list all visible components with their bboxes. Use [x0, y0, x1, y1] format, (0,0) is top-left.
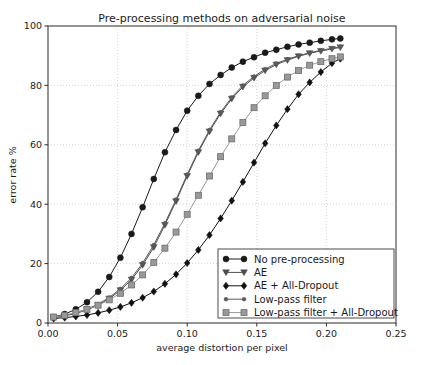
data-point-circle — [184, 108, 190, 114]
data-point-square — [95, 302, 101, 308]
data-point-dot — [263, 67, 267, 71]
data-point-square — [206, 173, 212, 179]
data-point-square — [173, 229, 179, 235]
data-point-dot — [230, 95, 234, 99]
y-tick-label: 60 — [30, 139, 42, 150]
y-tick-label: 100 — [24, 20, 42, 31]
data-point-dot — [338, 45, 342, 49]
data-point-dot — [242, 297, 246, 301]
x-tick-label: 0.20 — [316, 328, 337, 339]
chart-title: Pre-processing methods on adversarial no… — [98, 12, 345, 25]
data-point-dot — [224, 297, 228, 301]
data-point-circle — [129, 231, 135, 237]
data-point-square — [51, 314, 57, 320]
data-point-circle — [206, 81, 212, 87]
legend[interactable]: No pre-processingAEAE + All-DropoutLow-p… — [218, 249, 398, 318]
data-point-square — [106, 297, 112, 303]
data-point-circle — [307, 40, 313, 46]
data-point-circle — [106, 274, 112, 280]
data-point-square — [117, 290, 123, 296]
data-point-square — [296, 68, 302, 74]
data-point-dot — [208, 128, 212, 132]
data-point-square — [329, 56, 335, 62]
data-point-dot — [219, 110, 223, 114]
data-point-dot — [241, 84, 245, 88]
x-axis-label: average distortion per pixel — [156, 342, 287, 353]
legend-item-label: AE — [254, 267, 267, 278]
data-point-square — [337, 54, 343, 60]
chart-canvas: 0.000.050.100.150.200.25 020406080100 Pr… — [0, 0, 424, 365]
data-point-square — [307, 62, 313, 68]
data-point-square — [195, 192, 201, 198]
data-point-square — [223, 310, 229, 316]
data-point-circle — [284, 44, 290, 50]
data-point-square — [318, 59, 324, 65]
data-point-dot — [185, 173, 189, 177]
y-tick-label: 80 — [30, 80, 42, 91]
legend-item-label: AE + All-Dropout — [254, 280, 338, 291]
data-point-circle — [173, 127, 179, 133]
data-point-circle — [273, 47, 279, 53]
data-point-circle — [218, 72, 224, 78]
legend-item-label: Low-pass filter — [254, 294, 328, 305]
data-point-circle — [251, 54, 257, 60]
data-point-dot — [274, 62, 278, 66]
y-tick-label: 40 — [30, 199, 42, 210]
y-tick-label: 20 — [30, 258, 42, 269]
x-tick-label: 0.05 — [107, 328, 128, 339]
legend-item-label: No pre-processing — [254, 254, 345, 265]
data-point-square — [62, 312, 68, 318]
data-point-square — [84, 306, 90, 312]
data-point-circle — [84, 299, 90, 305]
data-point-dot — [163, 221, 167, 225]
data-point-dot — [319, 48, 323, 52]
data-point-dot — [152, 243, 156, 247]
data-point-circle — [262, 50, 268, 56]
data-point-square — [73, 310, 79, 316]
data-point-square — [162, 245, 168, 251]
data-point-dot — [141, 261, 145, 265]
data-point-circle — [223, 256, 229, 262]
data-point-square — [240, 120, 246, 126]
data-point-circle — [241, 256, 247, 262]
data-point-circle — [337, 35, 343, 41]
data-point-dot — [196, 149, 200, 153]
data-point-circle — [151, 176, 157, 182]
data-point-circle — [296, 41, 302, 47]
data-point-dot — [286, 57, 290, 61]
data-point-circle — [117, 255, 123, 261]
data-point-circle — [229, 65, 235, 71]
data-point-dot — [252, 75, 256, 79]
data-point-square — [229, 136, 235, 142]
data-point-square — [262, 93, 268, 99]
data-point-square — [218, 154, 224, 160]
y-axis-label: error rate % — [7, 146, 18, 203]
data-point-circle — [195, 93, 201, 99]
data-point-circle — [95, 289, 101, 295]
x-tick-label: 0.15 — [246, 328, 267, 339]
data-point-circle — [140, 204, 146, 210]
data-point-dot — [297, 54, 301, 58]
y-tick-label: 0 — [36, 317, 42, 328]
data-point-dot — [130, 276, 134, 280]
data-point-circle — [329, 36, 335, 42]
data-point-square — [273, 82, 279, 88]
legend-item-label: Low-pass filter + All-Dropout — [254, 307, 398, 318]
data-point-dot — [330, 46, 334, 50]
x-tick-label: 0.10 — [177, 328, 198, 339]
data-point-dot — [174, 198, 178, 202]
data-point-circle — [162, 149, 168, 155]
x-tick-label: 0.00 — [37, 328, 58, 339]
data-point-square — [184, 211, 190, 217]
data-point-dot — [308, 51, 312, 55]
data-point-square — [129, 282, 135, 288]
data-point-circle — [240, 59, 246, 65]
figure-container: 0.000.050.100.150.200.25 020406080100 Pr… — [0, 0, 424, 365]
data-point-circle — [318, 38, 324, 44]
data-point-square — [151, 259, 157, 265]
x-tick-label: 0.25 — [385, 328, 406, 339]
data-point-square — [140, 272, 146, 278]
data-point-square — [251, 105, 257, 111]
data-point-square — [284, 74, 290, 80]
data-point-square — [241, 310, 247, 316]
